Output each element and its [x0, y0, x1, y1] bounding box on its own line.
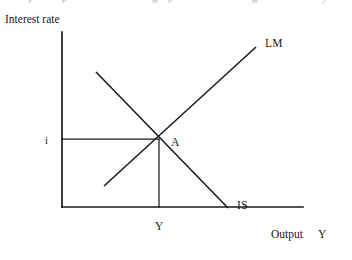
y-axis-tick-label-i: i [45, 135, 48, 146]
curve-group [96, 47, 256, 208]
diagram-canvas [0, 0, 352, 260]
x-axis-variable-label: Y [318, 229, 326, 241]
x-axis-tick-label-y: Y [155, 221, 163, 233]
y-axis-title: Interest rate [5, 14, 60, 26]
is-curve-label: IS [237, 200, 248, 212]
is-lm-diagram: p p g p g y Interest rate i A LM IS Y Ou… [0, 0, 352, 260]
x-axis-title: Output [271, 229, 303, 241]
equilibrium-point-label-a: A [171, 137, 179, 149]
lm-curve [104, 47, 256, 186]
lm-curve-label: LM [265, 38, 283, 50]
axis-group [62, 32, 303, 207]
is-curve [96, 72, 228, 208]
